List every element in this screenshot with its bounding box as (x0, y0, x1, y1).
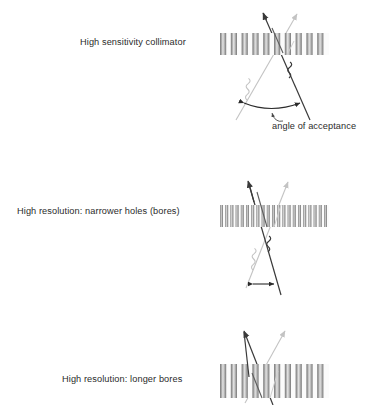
dark-gamma-ray-1 (263, 13, 310, 120)
annotation-angle-of-acceptance: angle of acceptance (272, 122, 356, 131)
panel-high-resolution-long: High resolution: longer bores (0, 325, 378, 405)
collimator-high-resolution-long (220, 364, 329, 398)
acceptance-angle-arc-1 (244, 103, 300, 109)
panel-high-resolution-narrow: High resolution: narrower holes (bores) (0, 160, 378, 320)
septa-group-2 (220, 205, 327, 227)
collimator-high-sensitivity (220, 33, 329, 55)
panel-high-sensitivity: High sensitivity collimator (0, 0, 378, 150)
light-gamma-ray-1 (236, 14, 297, 120)
panel-3-graphics (0, 325, 378, 405)
collimator-figure: High sensitivity collimator (0, 0, 378, 405)
collimator-high-resolution-narrow (220, 205, 329, 227)
panel-2-graphics (0, 160, 378, 320)
